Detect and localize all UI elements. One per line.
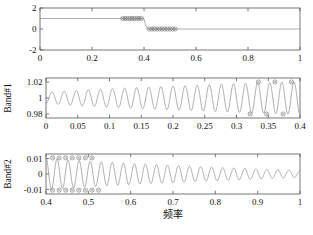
- x-tick-label: 1: [298, 197, 303, 207]
- panel-top-plot: 00.20.40.60.81-202: [0, 0, 313, 72]
- x-tick-label: 0.3: [231, 121, 243, 131]
- x-tick-label: 0.4: [40, 197, 52, 207]
- panel-top-container: 00.20.40.60.81-202: [0, 0, 313, 72]
- panel-middle-container: 00.050.10.150.20.250.30.350.40.9811.02Ba…: [0, 72, 313, 148]
- y-tick-label: 0.98: [27, 109, 43, 119]
- x-tick-label: 0: [38, 53, 43, 63]
- panel-middle-frame: [46, 78, 300, 118]
- panel-middle-dataline: [46, 82, 300, 115]
- x-tick-label: 0.1: [104, 121, 115, 131]
- panel-top-dataline: [40, 19, 300, 30]
- panel-bottom-frame: [46, 154, 300, 194]
- panel-middle-ylabel: Band#1: [3, 83, 13, 113]
- x-tick-label: 0.8: [242, 53, 254, 63]
- x-tick-label: 0.4: [138, 53, 150, 63]
- y-tick-label: 1: [38, 93, 43, 103]
- x-tick-label: 0.15: [133, 121, 149, 131]
- x-tick-label: 0.2: [167, 121, 178, 131]
- x-tick-label: 0.7: [167, 197, 179, 207]
- x-tick-label: 0.9: [252, 197, 264, 207]
- panel-bottom-ylabel: Band#2: [3, 159, 13, 189]
- y-tick-label: -2: [29, 45, 37, 55]
- y-tick-label: 0: [32, 24, 37, 34]
- x-tick-label: 1: [298, 53, 303, 63]
- y-tick-label: 0.01: [27, 154, 43, 164]
- filter-response-figure: 00.20.40.60.81-202 00.050.10.150.20.250.…: [0, 0, 313, 235]
- x-tick-label: 0.25: [197, 121, 213, 131]
- panel-bottom-xlabel: 频率: [163, 208, 183, 220]
- panel-bottom-container: 0.40.50.60.70.80.91-0.0100.01Band#2频率: [0, 148, 313, 235]
- panel-bottom-dataline: [46, 158, 300, 190]
- x-tick-label: 0.2: [86, 53, 97, 63]
- y-tick-label: 2: [32, 3, 37, 13]
- x-tick-label: 0.5: [83, 197, 95, 207]
- x-tick-label: 0.6: [190, 53, 202, 63]
- y-tick-label: 0: [38, 169, 43, 179]
- y-tick-label: 1.02: [27, 77, 43, 87]
- x-tick-label: 0.8: [210, 197, 222, 207]
- x-tick-label: 0.35: [260, 121, 276, 131]
- x-tick-label: 0.05: [70, 121, 86, 131]
- panel-middle-plot: 00.050.10.150.20.250.30.350.40.9811.02Ba…: [0, 72, 313, 148]
- x-tick-label: 0: [44, 121, 49, 131]
- y-tick-label: -0.01: [24, 185, 43, 195]
- x-tick-label: 0.6: [125, 197, 137, 207]
- panel-bottom-plot: 0.40.50.60.70.80.91-0.0100.01Band#2频率: [0, 148, 313, 235]
- x-tick-label: 0.4: [294, 121, 306, 131]
